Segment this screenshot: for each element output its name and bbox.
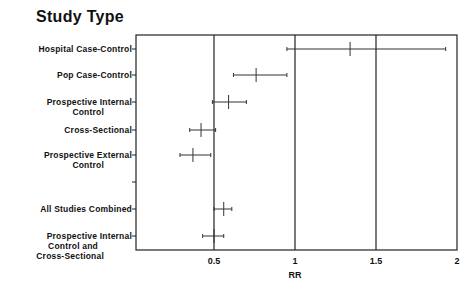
plot-frame — [136, 35, 457, 250]
x-tick-label: 0.5 — [208, 256, 221, 266]
x-tick-label: 2 — [454, 256, 459, 266]
forest-plot — [0, 0, 472, 293]
x-tick-label: 1.5 — [370, 256, 383, 266]
x-axis-label: RR — [289, 270, 302, 280]
x-tick-label: 1 — [292, 256, 297, 266]
